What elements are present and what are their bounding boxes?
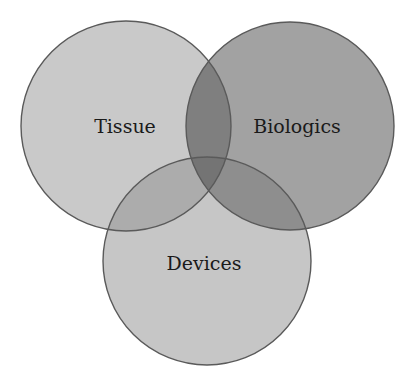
biologics-label: Biologics <box>253 115 341 137</box>
tissue-label: Tissue <box>94 115 156 137</box>
venn-diagram: Tissue Biologics Devices <box>0 0 415 384</box>
devices-label: Devices <box>167 252 242 274</box>
